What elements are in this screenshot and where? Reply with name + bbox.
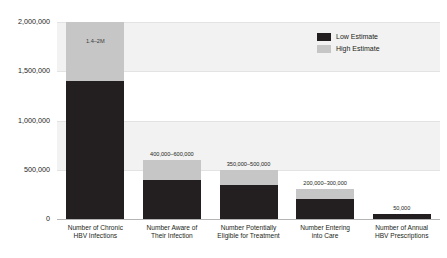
- legend-item[interactable]: Low Estimate: [317, 33, 427, 41]
- bar-group[interactable]: [143, 160, 201, 219]
- bar-value-label: 350,000–500,000: [227, 161, 271, 168]
- x-axis-category-label-line: Number Potentially: [210, 224, 287, 232]
- x-axis-category-label-line: Number of Annual: [363, 224, 440, 232]
- x-axis-line: [57, 219, 440, 220]
- legend-swatch-icon: [317, 33, 331, 41]
- y-axis-tick-label: 0: [46, 215, 50, 223]
- y-axis-tick-label: 500,000: [24, 166, 50, 174]
- x-axis-category-label-line: Their Infection: [134, 232, 211, 240]
- x-axis-category-label-line: HBV Prescriptions: [363, 232, 440, 240]
- bar-value-label: 200,000–300,000: [303, 180, 347, 187]
- hbv-care-cascade-chart: 0500,0001,000,0001,500,0002,000,000 1.4–…: [0, 0, 447, 258]
- bar-segment-low-estimate[interactable]: [220, 185, 278, 219]
- y-axis-tick-label: 2,000,000: [18, 18, 50, 26]
- bar-segment-low-estimate[interactable]: [143, 180, 201, 219]
- x-axis-category-label: Number PotentiallyEligible for Treatment: [210, 224, 287, 241]
- bar-group[interactable]: [220, 170, 278, 219]
- bar-segment-low-estimate[interactable]: [373, 214, 431, 219]
- y-axis-tick-label: 1,000,000: [18, 117, 50, 125]
- x-axis-category-label-line: Eligible for Treatment: [210, 232, 287, 240]
- chart-legend: Low EstimateHigh Estimate: [317, 33, 427, 57]
- x-axis-category-label-line: into Care: [287, 232, 364, 240]
- x-axis-category-label-line: Number Entering: [287, 224, 364, 232]
- x-axis-category-label: Number Enteringinto Care: [287, 224, 364, 241]
- x-axis-category-label-line: Number Aware of: [134, 224, 211, 232]
- bar-group[interactable]: [296, 189, 354, 219]
- x-axis-category-label: Number Aware ofTheir Infection: [134, 224, 211, 241]
- bar-value-label: 1.4–2M: [86, 38, 105, 45]
- x-axis-category-label: Number of AnnualHBV Prescriptions: [363, 224, 440, 241]
- bar-value-label: 50,000: [393, 205, 410, 212]
- x-axis-category-label: Number of ChronicHBV Infections: [57, 224, 134, 241]
- bar-value-label: 400,000–600,000: [150, 151, 194, 158]
- legend-swatch-icon: [317, 45, 331, 53]
- x-axis-category-label-line: HBV Infections: [57, 232, 134, 240]
- bar-segment-low-estimate[interactable]: [66, 81, 124, 219]
- bar-group[interactable]: [66, 22, 124, 219]
- y-axis: 0500,0001,000,0001,500,0002,000,000: [0, 0, 55, 258]
- legend-item-label: Low Estimate: [336, 33, 378, 41]
- x-axis-category-label-line: Number of Chronic: [57, 224, 134, 232]
- bar-segment-low-estimate[interactable]: [296, 199, 354, 219]
- bar-group[interactable]: [373, 214, 431, 219]
- legend-item-label: High Estimate: [336, 45, 380, 53]
- legend-item[interactable]: High Estimate: [317, 45, 427, 53]
- y-axis-tick-label: 1,500,000: [18, 67, 50, 75]
